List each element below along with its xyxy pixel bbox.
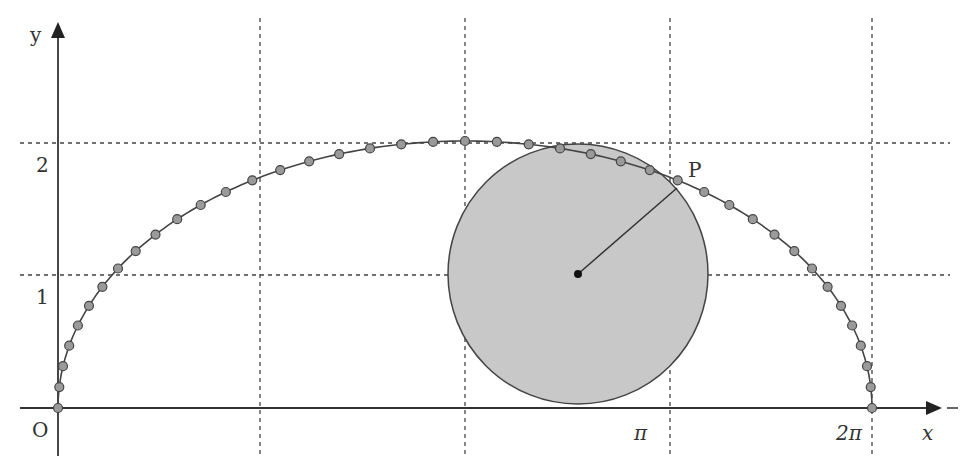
curve-marker — [461, 137, 470, 146]
y-axis-arrow-icon — [51, 22, 65, 38]
curve-marker — [848, 321, 857, 330]
point-p-label: P — [688, 158, 701, 182]
curve-marker — [823, 282, 832, 291]
curve-marker — [59, 362, 68, 371]
curve-marker — [55, 383, 64, 392]
curve-marker — [868, 404, 877, 413]
curve-marker — [837, 301, 846, 310]
tick-y-2: 2 — [36, 153, 49, 177]
curve-marker — [221, 188, 230, 197]
curve-marker — [492, 137, 501, 146]
curve-marker — [366, 144, 375, 153]
curve-marker — [808, 264, 817, 273]
circle-center — [574, 270, 582, 278]
curve-marker — [556, 144, 565, 153]
curve-marker — [335, 150, 344, 159]
curve-marker — [616, 157, 625, 166]
tick-x-pi: π — [633, 421, 648, 445]
curve-marker — [173, 215, 182, 224]
curve-marker — [700, 188, 709, 197]
curve-marker — [790, 247, 799, 256]
x-axis-label: x — [922, 421, 933, 445]
curve-marker — [131, 247, 140, 256]
curve-marker — [429, 137, 438, 146]
rolling-circle-diagram: y x O 1 2 π 2π P — [0, 0, 971, 476]
curve-marker — [276, 166, 285, 175]
curve-marker — [748, 215, 757, 224]
curve-marker — [586, 150, 595, 159]
curve-marker — [54, 404, 63, 413]
tick-x-2pi: 2π — [835, 421, 863, 445]
curve-marker — [770, 230, 779, 239]
curve-marker — [65, 341, 74, 350]
y-axis-label: y — [29, 23, 42, 47]
curve-marker — [866, 383, 875, 392]
curve-marker — [248, 176, 257, 185]
origin-label: O — [32, 418, 48, 442]
tick-y-1: 1 — [36, 285, 49, 309]
curve-marker — [645, 166, 654, 175]
curve-marker — [151, 230, 160, 239]
curve-marker — [196, 201, 205, 210]
curve-marker — [863, 362, 872, 371]
curve-marker — [524, 140, 533, 149]
curve-marker — [98, 282, 107, 291]
curve-marker — [673, 176, 682, 185]
curve-marker — [856, 341, 865, 350]
curve-marker — [397, 140, 406, 149]
curve-marker — [73, 321, 82, 330]
curve-marker — [725, 201, 734, 210]
curve-marker — [114, 264, 123, 273]
curve-marker — [85, 301, 94, 310]
curve-marker — [305, 157, 314, 166]
x-axis-arrow-icon — [926, 401, 942, 415]
